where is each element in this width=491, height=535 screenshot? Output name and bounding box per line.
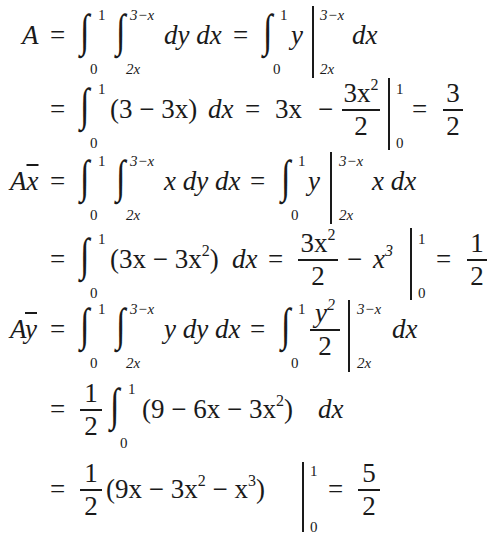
minus: −	[318, 96, 333, 123]
result-area: 3 2	[443, 80, 463, 140]
lower-limit: 0	[418, 286, 426, 301]
result-moment-y: 5 2	[358, 460, 380, 520]
equals: =	[233, 22, 248, 49]
integrand: (3 − 3x)	[110, 96, 197, 123]
lower-limit: 0	[90, 208, 98, 223]
integral-icon: ∫	[80, 232, 89, 278]
integral-icon: ∫	[263, 8, 272, 54]
integral-icon: ∫	[80, 8, 89, 54]
differential: x dx	[372, 168, 416, 195]
upper-limit: 1	[418, 232, 426, 247]
upper-limit: 1	[98, 82, 106, 97]
upper-limit: 1	[298, 154, 306, 169]
equals: =	[50, 22, 65, 49]
upper-limit: 1	[98, 8, 106, 23]
term: x3	[373, 246, 393, 273]
integrand: (3x − 3x2)	[110, 246, 219, 273]
lower-limit: 0	[90, 136, 98, 151]
lower-limit: 2x	[126, 208, 140, 223]
upper-limit: 1	[98, 232, 106, 247]
integral-icon: ∫	[281, 302, 290, 348]
lower-limit: 0	[291, 356, 299, 371]
fraction: y2 2	[310, 300, 340, 360]
equals: =	[412, 96, 427, 123]
upper-limit: 3−x	[130, 302, 154, 317]
differential: dx	[392, 316, 417, 343]
moment-x-symbol: Ax	[10, 168, 38, 195]
differential: dx	[318, 396, 343, 423]
moment-y-symbol: Ay	[10, 316, 37, 343]
evaluation-bar	[348, 300, 350, 372]
differential: x dy dx	[164, 168, 240, 195]
equals: =	[50, 396, 65, 423]
lower-limit: 0	[90, 356, 98, 371]
differential: y dy dx	[164, 316, 240, 343]
equals: =	[50, 316, 65, 343]
integral-icon: ∫	[281, 154, 290, 200]
upper-limit: 1	[98, 302, 106, 317]
upper-limit: 3−x	[320, 8, 344, 23]
lower-limit: 2x	[126, 62, 140, 77]
variable-y: y	[308, 168, 320, 195]
fraction-half: 1 2	[80, 460, 102, 520]
integral-icon: ∫	[116, 302, 125, 348]
integral-icon: ∫	[116, 8, 125, 54]
upper-limit: 3−x	[357, 302, 381, 317]
integrand: (9 − 6x − 3x2)	[142, 396, 293, 423]
equals: =	[436, 246, 451, 273]
integral-icon: ∫	[80, 154, 89, 200]
upper-limit: 1	[128, 382, 136, 397]
differential: dx	[232, 246, 257, 273]
differential: dy dx	[164, 22, 222, 49]
antiderivative: (9x − 3x2 − x3)	[106, 476, 265, 503]
fraction: 3x2 2	[298, 230, 338, 290]
fraction-half: 1 2	[80, 380, 102, 440]
integral-icon: ∫	[110, 382, 119, 428]
differential: dx	[208, 96, 233, 123]
integral-icon: ∫	[80, 302, 89, 348]
area-symbol: A	[22, 22, 39, 49]
upper-limit: 3−x	[339, 154, 363, 169]
upper-limit: 1	[98, 154, 106, 169]
equals: =	[268, 246, 283, 273]
evaluation-bar	[388, 78, 390, 150]
evaluation-bar	[302, 462, 304, 532]
integral-icon: ∫	[116, 154, 125, 200]
equals: =	[50, 168, 65, 195]
lower-limit: 0	[120, 436, 128, 451]
upper-limit: 1	[280, 8, 288, 23]
equals: =	[50, 476, 65, 503]
upper-limit: 1	[396, 82, 404, 97]
lower-limit: 2x	[357, 356, 371, 371]
equals: =	[50, 96, 65, 123]
evaluation-bar	[312, 6, 314, 78]
evaluation-bar	[330, 152, 332, 224]
lower-limit: 0	[90, 62, 98, 77]
lower-limit: 2x	[126, 356, 140, 371]
upper-limit: 3−x	[130, 8, 154, 23]
equals: =	[250, 168, 265, 195]
integral-icon: ∫	[80, 82, 89, 128]
equals: =	[245, 96, 260, 123]
term: 3x	[275, 96, 302, 123]
equals: =	[328, 476, 343, 503]
lower-limit: 0	[310, 520, 318, 535]
upper-limit: 3−x	[130, 154, 154, 169]
lower-limit: 0	[90, 286, 98, 301]
lower-limit: 0	[396, 136, 404, 151]
upper-limit: 1	[298, 302, 306, 317]
result-moment-x: 1 2	[467, 230, 487, 290]
minus: −	[347, 246, 362, 273]
differential: dx	[352, 22, 377, 49]
equals: =	[250, 316, 265, 343]
lower-limit: 0	[291, 208, 299, 223]
lower-limit: 2x	[320, 62, 334, 77]
lower-limit: 0	[273, 62, 281, 77]
evaluation-bar	[410, 228, 412, 300]
equals: =	[50, 246, 65, 273]
lower-limit: 2x	[339, 208, 353, 223]
variable-y: y	[291, 22, 303, 49]
fraction: 3x2 2	[342, 80, 380, 140]
upper-limit: 1	[310, 464, 318, 479]
